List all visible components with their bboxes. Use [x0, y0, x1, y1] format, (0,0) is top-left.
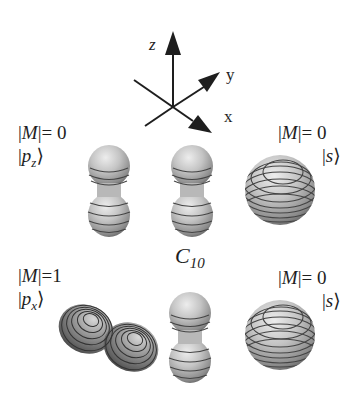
- y-axis-back-line: [145, 107, 173, 126]
- s-orbital-bottom-right: [242, 300, 318, 370]
- y-axis-label: y: [226, 66, 235, 83]
- s-orbital-top-right: [242, 155, 318, 225]
- top-right-ket-label: |s⟩: [322, 146, 341, 166]
- c10-main: C: [175, 243, 190, 268]
- ket-angle: ⟩: [36, 145, 43, 166]
- bottom-right-ket-label: |s⟩: [322, 291, 341, 311]
- c10-subscript: 10: [190, 255, 205, 271]
- diagram-graphics: [0, 0, 363, 403]
- bottom-right-m-label: |M|= 0: [278, 268, 326, 288]
- pz-orbital-bottom-center: [169, 292, 211, 383]
- px-orbital-bottom-left: [50, 295, 166, 380]
- m-variable: M: [282, 122, 298, 143]
- m-value: |= 0: [298, 267, 327, 288]
- m-variable: M: [282, 267, 298, 288]
- z-arrowhead-icon: [165, 31, 181, 55]
- top-left-m-label: |M|= 0: [18, 123, 66, 143]
- ket-variable: p: [22, 288, 32, 309]
- m-variable: M: [22, 265, 38, 286]
- m-value: |=1: [38, 265, 62, 286]
- bottom-left-m-label: |M|=1: [18, 266, 62, 286]
- orbital-diagram: z y x |M|= 0 |pz⟩ |M|= 0 |s⟩ C10 |M|=1 |…: [0, 0, 363, 403]
- pz-orbital-top-center: [171, 145, 213, 237]
- m-value: |= 0: [298, 122, 327, 143]
- z-axis-label: z: [149, 36, 156, 53]
- ket-angle: ⟩: [333, 145, 340, 166]
- m-value: |= 0: [38, 122, 67, 143]
- coordinate-axes: [134, 31, 220, 133]
- m-variable: M: [22, 122, 38, 143]
- top-right-m-label: |M|= 0: [278, 123, 326, 143]
- ket-angle: ⟩: [333, 290, 340, 311]
- pz-orbital-top-left: [88, 145, 130, 237]
- x-arrowhead-icon: [188, 115, 212, 133]
- top-left-ket-label: |pz⟩: [18, 146, 44, 173]
- c10-label: C10: [175, 243, 205, 272]
- ket-variable: p: [22, 145, 32, 166]
- ket-angle: ⟩: [37, 288, 44, 309]
- bottom-left-ket-label: |px⟩: [18, 289, 45, 316]
- x-axis-label: x: [224, 108, 233, 125]
